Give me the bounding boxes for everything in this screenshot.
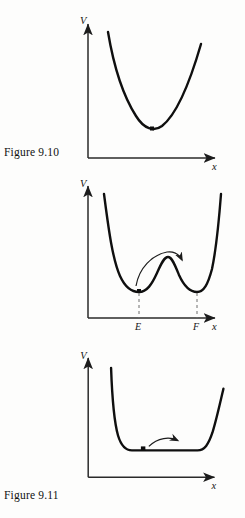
plot-9-12: V x (0, 344, 245, 517)
y-axis-label-9-11: V (80, 178, 88, 189)
tick-label-F: F (192, 321, 200, 332)
potential-curve-9-10 (108, 32, 201, 129)
y-axis-label-9-10: V (80, 15, 88, 26)
y-axis-label-9-12: V (80, 350, 88, 361)
x-axis-label-9-11: x (211, 321, 217, 332)
potential-curve-9-11 (104, 194, 221, 292)
figure-panel-9-12: V x Figure 9.12 (0, 344, 245, 517)
particle-dot-9-11 (137, 289, 141, 293)
figure-panel-9-10: V x Figure 9.10 (0, 0, 245, 173)
particle-dot-9-12 (141, 446, 145, 450)
plot-9-11: V x E F (0, 172, 245, 345)
figure-caption-9-10: Figure 9.10 (4, 146, 59, 158)
x-axis-label-9-10: x (211, 161, 217, 172)
figure-page: V x Figure 9.10 (0, 0, 245, 518)
x-axis-label-9-12: x (210, 480, 216, 491)
figure-panel-9-11: V x E F Figure 9.11 (0, 172, 245, 345)
motion-arrow-9-12 (149, 438, 178, 446)
tick-label-E: E (134, 321, 141, 332)
particle-dot-9-10 (150, 127, 154, 131)
